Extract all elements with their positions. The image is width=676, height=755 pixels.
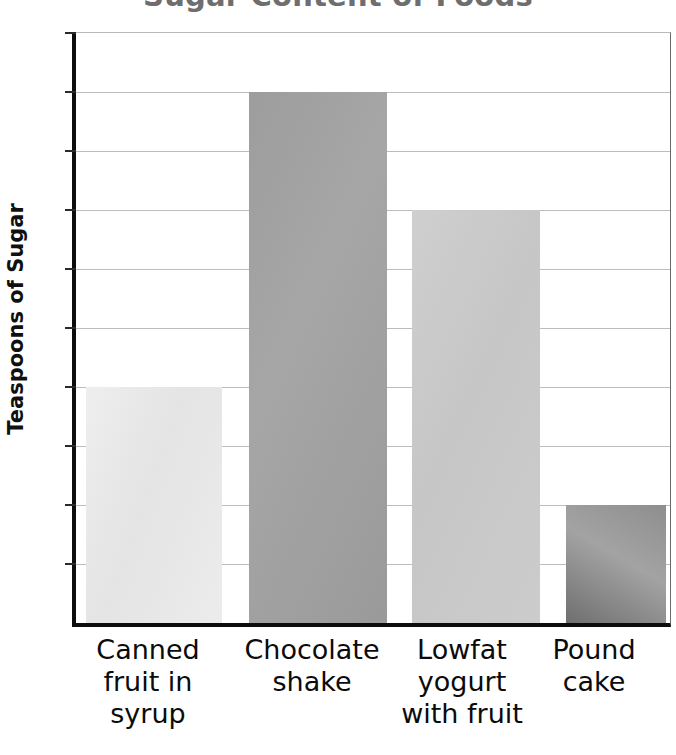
- bar: [86, 387, 222, 623]
- y-axis-tick: [65, 150, 76, 152]
- y-axis-tick: [65, 386, 76, 388]
- plot-area: [72, 32, 671, 627]
- y-axis-tick: [65, 209, 76, 211]
- y-axis-tick: [65, 327, 76, 329]
- y-axis-tick: [65, 563, 76, 565]
- y-axis-tick: [65, 268, 76, 270]
- x-axis-label-line: with fruit: [352, 698, 572, 730]
- bar: [566, 505, 666, 623]
- x-axis-label-line: cake: [484, 666, 676, 698]
- y-axis-tick: [65, 445, 76, 447]
- x-axis-label-line: Pound: [484, 634, 676, 666]
- bar: [412, 210, 540, 623]
- y-axis-tick: [65, 32, 76, 34]
- y-axis-tick: [65, 504, 76, 506]
- y-axis-title: Teaspoons of Sugar: [4, 199, 28, 439]
- x-axis-label-line: syrup: [38, 698, 258, 730]
- x-axis-category-label: Poundcake: [484, 634, 676, 698]
- bar: [249, 92, 387, 623]
- chart-title: Sugar Content of Foods: [0, 0, 676, 13]
- y-axis-tick: [65, 91, 76, 93]
- bar-chart: Sugar Content of Foods Teaspoons of Suga…: [0, 0, 676, 755]
